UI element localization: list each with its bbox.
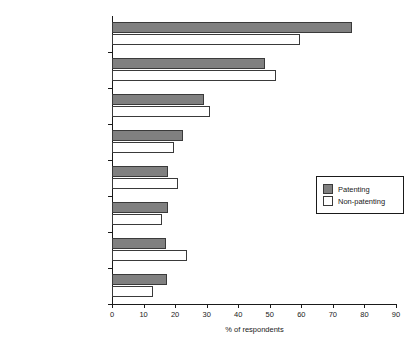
- category-group: Technical/trade journal: [112, 52, 396, 88]
- x-axis-title: % of respondents: [112, 325, 397, 334]
- legend-swatch-non-patenting: [323, 196, 333, 206]
- bar-non-patenting: [112, 250, 187, 261]
- bar-non-patenting: [112, 106, 210, 117]
- legend-label-non-patenting: Non-patenting: [338, 197, 385, 206]
- bar-non-patenting: [112, 142, 174, 153]
- x-axis-tick-label: 30: [192, 310, 222, 319]
- x-axis-tick-label: 70: [318, 310, 348, 319]
- x-axis-tick: [207, 304, 208, 308]
- chart-legend: Patenting Non-patenting: [316, 176, 404, 214]
- x-axis-tick: [364, 304, 365, 308]
- bar-non-patenting: [112, 286, 153, 297]
- bar-non-patenting: [112, 70, 276, 81]
- x-axis-tick-label: 90: [381, 310, 411, 319]
- x-axis-tick: [270, 304, 271, 308]
- bar-patenting: [112, 202, 168, 213]
- bar-patenting: [112, 94, 204, 105]
- bar-patenting: [112, 166, 168, 177]
- bar-patenting: [112, 238, 166, 249]
- x-axis-tick-label: 60: [286, 310, 316, 319]
- x-axis-tick-label: 20: [160, 310, 190, 319]
- plot-area: Own R&DTechnical/trade journalFriends/co…: [112, 16, 396, 304]
- bar-non-patenting: [112, 178, 178, 189]
- x-axis-tick: [396, 304, 397, 308]
- x-axis-tick-label: 80: [349, 310, 379, 319]
- x-axis-tick-label: 10: [129, 310, 159, 319]
- legend-swatch-patenting: [323, 184, 333, 194]
- x-axis-tick: [175, 304, 176, 308]
- legend-item-non-patenting: Non-patenting: [323, 196, 397, 206]
- x-axis-tick: [301, 304, 302, 308]
- category-group: Workshops/seminars: [112, 268, 396, 304]
- x-axis-tick-label: 0: [97, 310, 127, 319]
- x-axis-tick: [238, 304, 239, 308]
- bar-patenting: [112, 130, 183, 141]
- bar-patenting: [112, 274, 167, 285]
- category-group: People at seminars: [112, 124, 396, 160]
- bar-chart: Own R&DTechnical/trade journalFriends/co…: [0, 0, 416, 346]
- bar-non-patenting: [112, 214, 162, 225]
- x-axis-tick-label: 40: [223, 310, 253, 319]
- legend-item-patenting: Patenting: [323, 184, 397, 194]
- bar-patenting: [112, 22, 352, 33]
- category-group: Newspapers/magazines: [112, 232, 396, 268]
- x-axis-tick: [112, 304, 113, 308]
- category-group: Friends/colleagues: [112, 88, 396, 124]
- bar-non-patenting: [112, 34, 300, 45]
- x-axis-tick: [333, 304, 334, 308]
- x-axis-tick-label: 50: [255, 310, 285, 319]
- x-axis-line: [112, 304, 397, 305]
- legend-label-patenting: Patenting: [338, 185, 370, 194]
- x-axis-tick: [144, 304, 145, 308]
- category-group: Own R&D: [112, 16, 396, 52]
- bar-patenting: [112, 58, 265, 69]
